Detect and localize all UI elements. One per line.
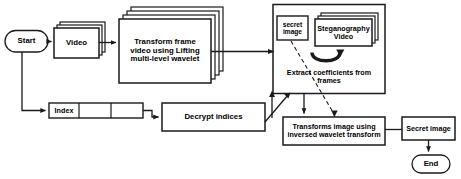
flowchart-diagram: Start Video Transform frame video using … [0,0,461,179]
node-inverse-transform [283,117,385,145]
edge-index-to-decrypt [143,111,159,118]
node-secret-image-small [277,16,308,40]
flowchart-connectors-layer [0,0,461,179]
edge-start-to-index [22,52,46,111]
node-start [5,31,48,53]
node-end [412,155,450,173]
node-steganography-video-stack [315,13,378,46]
node-transform-frames-stack [119,7,223,83]
node-decrypt-indices [162,103,265,131]
node-index-table [49,103,143,118]
node-secret-image-result [402,117,455,140]
node-video-stack [54,22,105,58]
edge-left-riser-to-group [269,91,275,118]
